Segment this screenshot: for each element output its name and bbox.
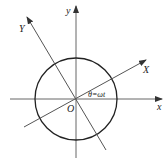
origin-label: O [67,103,74,114]
angle-label: θ=ωt [88,90,106,99]
x-axis-label: x [156,101,162,112]
y-axis-label: y [65,5,71,16]
rotated-Y-axis-line [27,17,106,150]
rotated-X-axis-line [24,60,146,127]
Y-axis-label: Y [19,23,26,34]
rotating-frame-diagram: y Y X x O θ=ωt [0,0,168,168]
X-axis-label: X [142,64,150,75]
